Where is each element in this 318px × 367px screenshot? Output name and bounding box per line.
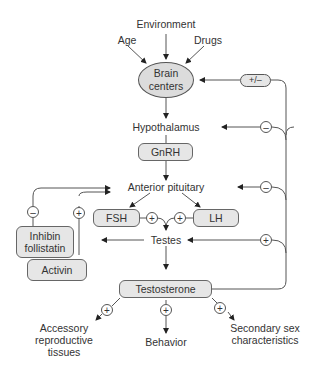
node-lh: LH [193,209,239,227]
node-anterior-pituitary: Anterior pituitary [118,181,214,193]
sign-fsh: + [146,212,158,224]
sign-lh: + [174,212,186,224]
input-environment: Environment [128,18,204,30]
sign-activin: + [73,207,85,219]
node-activin: Activin [27,259,87,281]
sign-feedback-brain: +/– [240,74,271,87]
sign-feedback-testes: + [260,234,272,246]
output-accessory-tissues: Accessory reproductive tissues [30,322,98,358]
sign-inhibin: – [27,206,39,218]
input-drugs: Drugs [190,34,226,46]
node-hypothalamus: Hypothalamus [128,121,204,133]
node-fsh: FSH [93,209,140,227]
sign-feedback-hypothalamus: – [260,121,272,133]
node-inhibin-follistatin: Inhibin follistatin [16,226,74,258]
sign-secondary: + [214,302,226,314]
sign-accessory: + [101,304,113,316]
node-gnrh: GnRH [138,143,193,161]
sign-behavior: + [160,304,172,316]
output-secondary-sex-characteristics: Secondary sex characteristics [224,322,306,346]
input-age: Age [112,34,142,46]
sign-feedback-pituitary: – [260,181,272,193]
node-testes: Testes [146,234,186,246]
node-testosterone: Testosterone [119,280,212,298]
node-brain-centers: Brain centers [138,62,194,98]
output-behavior: Behavior [136,336,196,348]
